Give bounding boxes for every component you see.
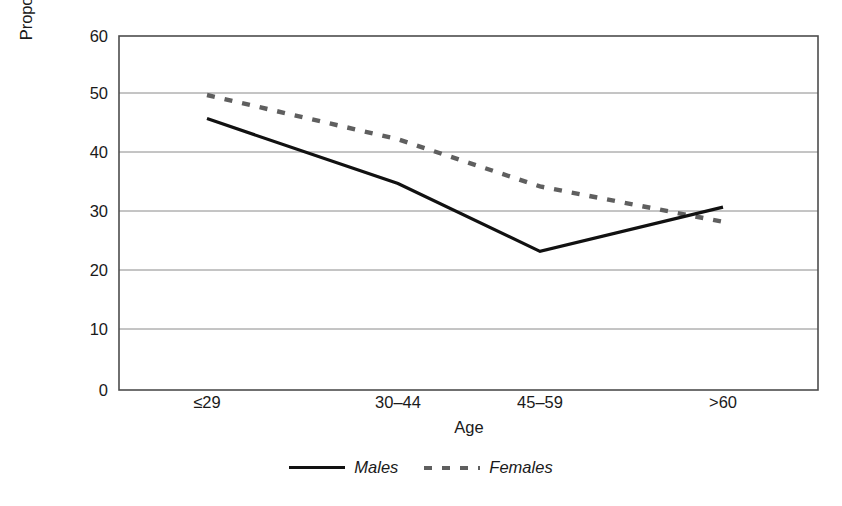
x-tick-label-3: 45–59 (517, 394, 563, 411)
legend: Males Females (0, 458, 842, 477)
x-tick-label-1: ≤29 (193, 394, 220, 411)
plot-frame (119, 36, 818, 390)
series-line-males (207, 119, 723, 252)
x-tick-label-4: >60 (709, 394, 737, 411)
x-tick-label-2: 30–44 (375, 394, 421, 411)
series-line-females (207, 95, 723, 222)
dashed-line-swatch-icon (424, 466, 480, 470)
bipolar-ii-age-line-chart: Proportion of patients with a Bipolar II… (0, 0, 842, 506)
solid-line-swatch-icon (289, 466, 345, 469)
x-axis-label: Age (119, 418, 819, 437)
legend-label-males: Males (354, 458, 398, 477)
legend-item-females: Females (424, 458, 552, 477)
legend-label-females: Females (489, 458, 552, 477)
legend-item-males: Males (289, 458, 398, 477)
